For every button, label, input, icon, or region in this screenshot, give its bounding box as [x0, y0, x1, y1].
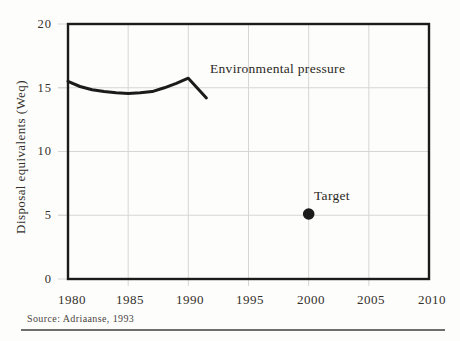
- series-label-target: Target: [314, 188, 350, 204]
- x-tick-label-1990: 1990: [166, 291, 214, 309]
- y-axis-title: Disposal equivalents (Weq): [13, 80, 29, 234]
- chart-canvas: [0, 0, 460, 341]
- x-tick-label-1980: 1980: [48, 291, 96, 309]
- x-tick-label-2005: 2005: [347, 291, 395, 309]
- y-tick-label-20: 20: [0, 15, 52, 33]
- x-tick-label-2000: 2000: [287, 291, 335, 309]
- x-tick-label-2010: 2010: [408, 291, 456, 309]
- chart-figure: 20 15 10 5 0 1980 1985 1990 1995 2000 20…: [0, 0, 460, 341]
- y-tick-label-0: 0: [0, 270, 52, 288]
- x-tick-label-1995: 1995: [226, 291, 274, 309]
- bottom-rule: [21, 329, 445, 331]
- x-tick-label-1985: 1985: [106, 291, 154, 309]
- target-dot: [303, 208, 315, 220]
- series-label-environmental-pressure: Environmental pressure: [210, 61, 345, 77]
- source-caption: Source: Adriaanse, 1993: [27, 313, 134, 324]
